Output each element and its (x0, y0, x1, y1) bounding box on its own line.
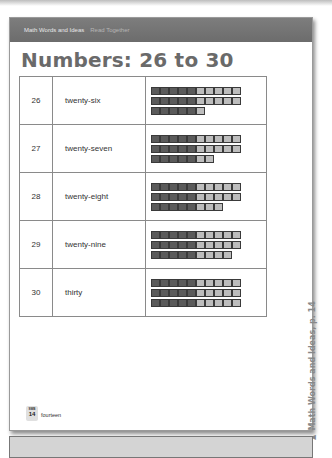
number-cell: 30 (20, 269, 53, 317)
unit-cube (151, 97, 160, 105)
unit-cube (160, 289, 169, 297)
unit-cube (178, 107, 187, 115)
unit-cube (205, 241, 214, 249)
unit-cube (205, 279, 214, 287)
unit-cube (160, 251, 169, 259)
page-number: 14 (29, 411, 36, 417)
ten-bar (151, 241, 266, 249)
unit-cube (214, 289, 223, 297)
number-cell: 27 (20, 125, 53, 173)
unit-cube (187, 107, 196, 115)
unit-cube (223, 279, 232, 287)
unit-cube (160, 183, 169, 191)
unit-cube (205, 251, 214, 259)
unit-cube (223, 87, 232, 95)
unit-cube (232, 183, 241, 191)
unit-cube (214, 135, 223, 143)
unit-cube (187, 231, 196, 239)
unit-cube (205, 231, 214, 239)
number-cell: 26 (20, 77, 53, 125)
unit-cube (205, 155, 214, 163)
unit-cube (214, 193, 223, 201)
unit-cube (178, 251, 187, 259)
unit-cube (169, 183, 178, 191)
unit-cube (196, 203, 205, 211)
unit-cube (178, 145, 187, 153)
unit-cube (169, 135, 178, 143)
unit-cube (169, 279, 178, 287)
unit-cube (169, 241, 178, 249)
unit-cube (169, 299, 178, 307)
word-cell: twenty-eight (53, 173, 146, 221)
page-footer: SWB 14 fourteen (26, 406, 61, 421)
unit-cube (187, 183, 196, 191)
ten-bar (151, 289, 266, 297)
unit-cube (151, 203, 160, 211)
unit-cube (187, 135, 196, 143)
unit-cube (178, 87, 187, 95)
unit-cube (178, 299, 187, 307)
unit-cube (187, 251, 196, 259)
unit-cube (178, 241, 187, 249)
unit-cube (214, 299, 223, 307)
unit-cube (178, 155, 187, 163)
unit-cube (187, 145, 196, 153)
unit-cube (223, 231, 232, 239)
ten-bar (151, 251, 266, 259)
word-cell: twenty-seven (53, 125, 146, 173)
ten-bars-cell (146, 269, 267, 317)
unit-cube (151, 87, 160, 95)
unit-cube (232, 145, 241, 153)
unit-cube (214, 231, 223, 239)
unit-cube (169, 97, 178, 105)
unit-cube (205, 97, 214, 105)
unit-cube (160, 107, 169, 115)
unit-cube (178, 279, 187, 287)
unit-cube (196, 135, 205, 143)
page-title: Numbers: 26 to 30 (21, 48, 312, 72)
breadcrumb-primary: Math Words and Ideas (24, 27, 84, 33)
unit-cube (151, 231, 160, 239)
ten-bars-cell (146, 173, 267, 221)
unit-cube (223, 299, 232, 307)
unit-cube (169, 231, 178, 239)
unit-cube (169, 145, 178, 153)
unit-cube (160, 203, 169, 211)
unit-cube (151, 107, 160, 115)
unit-cube (205, 203, 214, 211)
unit-cube (187, 241, 196, 249)
word-cell: twenty-six (53, 77, 146, 125)
unit-cube (232, 289, 241, 297)
unit-cube (187, 299, 196, 307)
unit-cube (187, 87, 196, 95)
unit-cube (169, 155, 178, 163)
table-row: 30thirty (20, 269, 267, 317)
unit-cube (232, 231, 241, 239)
unit-cube (205, 87, 214, 95)
unit-cube (232, 279, 241, 287)
unit-cube (160, 279, 169, 287)
unit-cube (187, 279, 196, 287)
unit-cube (214, 241, 223, 249)
number-cell: 29 (20, 221, 53, 269)
unit-cube (205, 135, 214, 143)
unit-cube (151, 183, 160, 191)
unit-cube (232, 135, 241, 143)
unit-cube (169, 289, 178, 297)
table-row: 28twenty-eight (20, 173, 267, 221)
unit-cube (223, 97, 232, 105)
unit-cube (151, 241, 160, 249)
unit-cube (196, 231, 205, 239)
unit-cube (205, 145, 214, 153)
unit-cube (214, 251, 223, 259)
unit-cube (160, 87, 169, 95)
ten-bar (151, 183, 266, 191)
unit-cube (223, 135, 232, 143)
unit-cube (214, 279, 223, 287)
unit-cube (160, 193, 169, 201)
unit-cube (205, 299, 214, 307)
unit-cube (196, 241, 205, 249)
unit-cube (223, 289, 232, 297)
unit-cube (160, 299, 169, 307)
unit-cube (232, 97, 241, 105)
